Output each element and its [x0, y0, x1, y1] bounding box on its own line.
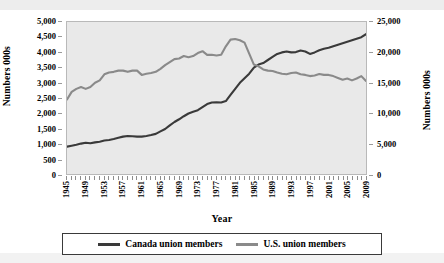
y-tick-mark — [58, 175, 62, 176]
y-tick-label: 1,000 — [37, 140, 56, 149]
y-tick-mark — [58, 83, 62, 84]
y-tick-label: 4,000 — [37, 48, 56, 57]
x-tick-mark — [268, 176, 269, 180]
x-tick-mark — [85, 176, 86, 180]
x-tick-mark — [127, 176, 128, 180]
x-tick-mark — [183, 176, 184, 180]
y-axis-left-title: Numbers 000s — [2, 46, 12, 106]
x-tick-mark — [202, 176, 203, 180]
x-tick-mark — [132, 176, 133, 180]
x-tick-mark — [108, 176, 109, 180]
chart-legend: Canada union members U.S. union members — [62, 233, 382, 255]
y-tick-mark — [58, 113, 62, 114]
series-line — [67, 34, 366, 146]
x-tick-mark — [122, 176, 123, 180]
x-tick-mark — [113, 176, 114, 180]
x-axis-title: Year — [0, 213, 444, 224]
x-tick-mark — [216, 176, 217, 180]
x-tick-mark — [329, 176, 330, 180]
y-tick-label: 20,000 — [377, 48, 400, 57]
top-band — [0, 0, 444, 10]
x-tick-label: 2001 — [325, 181, 334, 198]
y-tick-label: 25,000 — [377, 17, 400, 26]
x-tick-label: 1957 — [118, 181, 127, 198]
x-tick-mark — [160, 176, 161, 180]
x-tick-mark — [286, 176, 287, 180]
x-tick-label: 1977 — [212, 181, 221, 198]
x-tick-mark — [254, 176, 255, 180]
y-tick-mark — [369, 175, 373, 176]
y-tick-mark — [369, 21, 373, 22]
legend-swatch-canada — [98, 243, 120, 246]
legend-item-us: U.S. union members — [236, 239, 345, 249]
y-tick-mark — [58, 52, 62, 53]
x-tick-label: 1985 — [250, 181, 259, 198]
series-line — [67, 39, 366, 99]
x-tick-label: 1981 — [231, 181, 240, 198]
y-tick-mark — [58, 144, 62, 145]
x-tick-mark — [118, 176, 119, 180]
x-tick-mark — [155, 176, 156, 180]
x-tick-mark — [361, 176, 362, 180]
x-tick-mark — [221, 176, 222, 180]
x-tick-mark — [300, 176, 301, 180]
x-axis-labels: 1945194919531957196119651969197319771981… — [0, 181, 444, 215]
x-tick-mark — [164, 176, 165, 180]
legend-item-canada: Canada union members — [98, 239, 222, 249]
x-tick-mark — [174, 176, 175, 180]
x-tick-mark — [225, 176, 226, 180]
legend-swatch-us — [236, 243, 258, 246]
x-tick-mark — [352, 176, 353, 180]
x-tick-mark — [230, 176, 231, 180]
y-axis-right-title: Numbers 000s — [422, 70, 432, 130]
x-tick-label: 1949 — [81, 181, 90, 198]
x-tick-mark — [193, 176, 194, 180]
y-tick-label: 3,500 — [37, 63, 56, 72]
x-tick-label: 1989 — [268, 181, 277, 198]
x-tick-mark — [89, 176, 90, 180]
y-tick-label: 0 — [52, 171, 56, 180]
x-tick-mark — [319, 176, 320, 180]
x-tick-label: 1997 — [306, 181, 315, 198]
y-tick-mark — [369, 113, 373, 114]
x-tick-mark — [310, 176, 311, 180]
x-tick-mark — [282, 176, 283, 180]
x-tick-mark — [277, 176, 278, 180]
y-tick-mark — [369, 52, 373, 53]
y-tick-mark — [369, 83, 373, 84]
x-tick-mark — [263, 176, 264, 180]
chart-page: 05001,0001,5002,0002,5003,0003,5004,0004… — [0, 0, 444, 263]
x-tick-label: 1993 — [287, 181, 296, 198]
x-tick-mark — [314, 176, 315, 180]
x-tick-mark — [338, 176, 339, 180]
y-tick-label: 15,000 — [377, 79, 400, 88]
x-tick-mark — [66, 176, 67, 180]
x-tick-mark — [146, 176, 147, 180]
x-tick-mark — [104, 176, 105, 180]
y-tick-label: 0 — [377, 171, 381, 180]
x-tick-mark — [71, 176, 72, 180]
x-tick-mark — [357, 176, 358, 180]
y-tick-label: 1,500 — [37, 125, 56, 134]
x-tick-label: 1953 — [100, 181, 109, 198]
x-tick-label: 1969 — [175, 181, 184, 198]
x-tick-mark — [211, 176, 212, 180]
x-tick-mark — [258, 176, 259, 180]
y-tick-label: 5,000 — [37, 17, 56, 26]
x-tick-mark — [366, 176, 367, 180]
x-tick-mark — [188, 176, 189, 180]
legend-label-us: U.S. union members — [263, 239, 345, 249]
x-tick-label: 1973 — [193, 181, 202, 198]
x-tick-label: 2005 — [343, 181, 352, 198]
x-tick-label: 1965 — [156, 181, 165, 198]
y-tick-label: 3,000 — [37, 79, 56, 88]
y-tick-label: 2,500 — [37, 94, 56, 103]
x-tick-label: 1961 — [137, 181, 146, 198]
legend-label-canada: Canada union members — [125, 239, 222, 249]
plot-area — [66, 21, 367, 175]
x-tick-mark — [333, 176, 334, 180]
y-tick-mark — [58, 36, 62, 37]
y-axis-right: 05,00010,00015,00020,00025,000 — [369, 10, 429, 186]
y-tick-label: 2,000 — [37, 109, 56, 118]
x-tick-mark — [235, 176, 236, 180]
